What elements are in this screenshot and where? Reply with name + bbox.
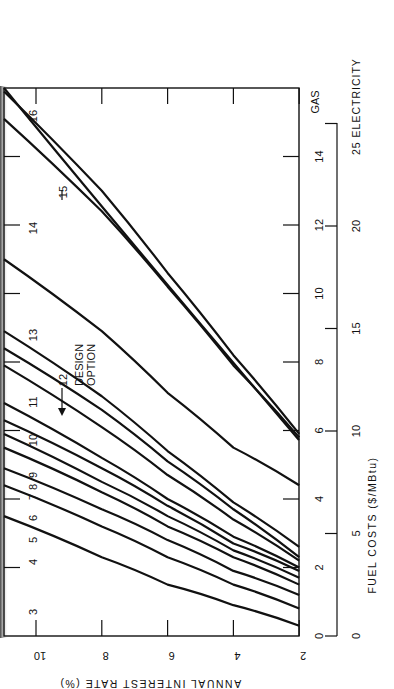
- boundary-curve-16: [4, 88, 299, 440]
- electricity-axis-label: 25 ELECTRICITY: [350, 58, 362, 155]
- electricity-tick-label: 0: [350, 633, 362, 639]
- gas-tick-label: 6: [313, 427, 325, 433]
- electricity-tick-label: 10: [350, 425, 362, 437]
- zone-label-10: 10: [27, 434, 39, 446]
- zone-label-5: 5: [27, 537, 39, 543]
- plot-frame: [4, 88, 299, 636]
- axis-ticks: [4, 88, 337, 636]
- interest-tick-label: 4: [234, 650, 240, 662]
- boundary-curve-7: [4, 434, 299, 578]
- curve15-num: 15: [57, 186, 69, 198]
- interest-tick-label: 2: [300, 650, 306, 662]
- zone-label-9: 9: [27, 472, 39, 478]
- design-option-line1: DESIGN: [73, 344, 85, 386]
- zone-label-16: 16: [27, 110, 39, 122]
- interest-tick-label: 10: [34, 650, 46, 662]
- gas-tick-label: 2: [313, 564, 325, 570]
- zone-label-11: 11: [27, 396, 39, 407]
- electricity-tick-label: 15: [350, 322, 362, 334]
- rotated-chart: 34567891011131416 1086420246810121405101…: [0, 0, 394, 689]
- fuel-axis-title: FUEL COSTS ($/MBtu): [366, 456, 378, 593]
- curves: [4, 88, 299, 626]
- gas-tick-label: 4: [313, 496, 325, 502]
- gas-tick-label: 14: [313, 150, 325, 162]
- zone-label-4: 4: [27, 559, 39, 565]
- zone-label-14: 14: [27, 222, 39, 234]
- gas-tick-label: 8: [313, 359, 325, 365]
- electricity-tick-label: 5: [350, 530, 362, 536]
- design-option-arrowhead-icon: [58, 408, 66, 416]
- zone-label-6: 6: [27, 515, 39, 521]
- interest-tick-label: 6: [169, 650, 175, 662]
- gas-tick-label: 10: [313, 287, 325, 299]
- gas-tick-label: 12: [313, 219, 325, 231]
- zone-label-8: 8: [27, 484, 39, 490]
- design-option-num: 12: [57, 374, 69, 386]
- zone-label-7: 7: [27, 494, 39, 500]
- zone-label-13: 13: [27, 329, 39, 341]
- design-option-line2: OPTION: [85, 344, 97, 386]
- interest-tick-label: 8: [103, 650, 109, 662]
- zone-label-3: 3: [27, 609, 39, 615]
- interest-axis-title: ANNUAL INTEREST RATE (%): [59, 678, 241, 689]
- boundary-curve-13: [4, 259, 299, 485]
- gas-tick-label: 0: [313, 633, 325, 639]
- electricity-tick-label: 20: [350, 220, 362, 232]
- axis-tick-labels: 1086420246810121405101520: [34, 150, 362, 662]
- gas-axis-label: GAS: [309, 90, 321, 113]
- boundary-curve-12: [4, 331, 299, 547]
